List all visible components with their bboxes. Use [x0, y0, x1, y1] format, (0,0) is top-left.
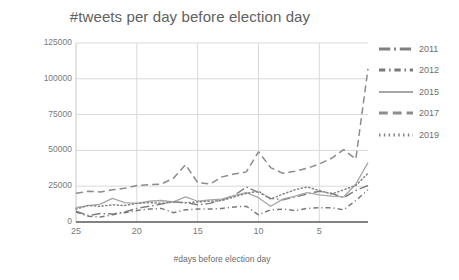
- series-line-2015: [76, 163, 368, 208]
- series-line-2019: [76, 173, 368, 209]
- x-tick-label: 15: [183, 226, 213, 236]
- legend-swatch-2011: [378, 44, 414, 54]
- legend-swatch-2019: [378, 130, 414, 140]
- legend-label: 2015: [414, 87, 439, 97]
- chart-container: #tweets per day before election day #twe…: [0, 0, 459, 280]
- chart-legend: 20112012201520172019: [378, 38, 458, 146]
- legend-swatch-2012: [378, 65, 414, 75]
- x-axis-title: #days before election day: [76, 254, 368, 264]
- legend-item-2012[interactable]: 2012: [378, 60, 458, 82]
- x-tick-label: 25: [61, 226, 91, 236]
- series-line-2017: [76, 69, 368, 194]
- legend-item-2017[interactable]: 2017: [378, 103, 458, 125]
- x-tick-label: 5: [304, 226, 334, 236]
- legend-item-2019[interactable]: 2019: [378, 124, 458, 146]
- series-line-2012: [76, 190, 368, 217]
- legend-item-2011[interactable]: 2011: [378, 38, 458, 60]
- legend-label: 2017: [414, 108, 439, 118]
- legend-label: 2012: [414, 65, 439, 75]
- legend-label: 2019: [414, 130, 439, 140]
- legend-label: 2011: [414, 44, 438, 54]
- data-series-group: [76, 69, 368, 217]
- legend-item-2015[interactable]: 2015: [378, 81, 458, 103]
- x-tick-label: 20: [122, 226, 152, 236]
- legend-swatch-2017: [378, 108, 414, 118]
- x-tick-label: 10: [244, 226, 274, 236]
- legend-swatch-2015: [378, 87, 414, 97]
